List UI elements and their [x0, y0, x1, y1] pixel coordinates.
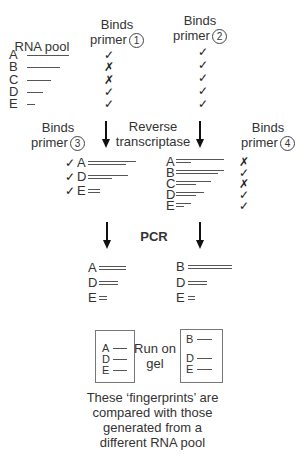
- primer-2-word: primer: [173, 28, 210, 43]
- primer-4-header: Binds primer4: [230, 120, 305, 151]
- cdna-strand-a: [88, 164, 126, 165]
- gel-band-e: [113, 370, 127, 371]
- cdna-strand-d: [176, 195, 196, 196]
- primer-2-header: Binds primer2: [160, 13, 240, 44]
- label-b: B: [176, 260, 185, 274]
- cdna-strand-c: [176, 184, 196, 185]
- gel-band-e: [197, 369, 212, 370]
- check-icon: ✓: [198, 71, 208, 85]
- dna-strand-e: [188, 296, 195, 297]
- dna-strand-d: [99, 281, 118, 282]
- gel-right: B D E: [180, 329, 223, 383]
- label-e: E: [88, 291, 97, 305]
- primer-4-line2: primer4: [230, 135, 305, 151]
- check-icon: ✓: [239, 199, 249, 213]
- band-label-e: E: [186, 362, 193, 376]
- primer-3-binds: Binds: [20, 120, 96, 135]
- rna-strand-e: [27, 104, 35, 105]
- rna-strand-c: [176, 181, 211, 182]
- circled-number-3: 3: [70, 136, 85, 151]
- rna-strand-e: [176, 203, 191, 204]
- check-icon: ✓: [198, 97, 208, 111]
- gel-band-d: [113, 359, 127, 360]
- primer-4-word: primer: [241, 135, 278, 150]
- transcriptase-word: transcriptase: [113, 134, 193, 149]
- check-icon: ✓: [198, 58, 208, 72]
- cdna-strand-b: [176, 173, 218, 174]
- label-d: D: [176, 276, 185, 290]
- cross-icon: ✗: [104, 60, 114, 74]
- primer-1-header: Binds primer1: [82, 17, 152, 48]
- rna-strand-b: [27, 67, 60, 68]
- check-icon: ✓: [65, 170, 75, 184]
- dna-strand-e: [99, 296, 107, 297]
- circled-number-2: 2: [212, 29, 227, 44]
- run-on-text: Run on: [133, 341, 177, 356]
- reverse-transcriptase-label: Reverse transcriptase: [113, 119, 193, 149]
- dna-strand-d: [188, 284, 207, 285]
- gel-band-b: [197, 339, 212, 340]
- primer-2-line2: primer2: [160, 28, 240, 44]
- cdna-strand-a: [176, 162, 191, 163]
- rna-strand-a: [176, 159, 224, 160]
- rna-strand-a: [27, 55, 69, 56]
- primer-1-line2: primer1: [82, 32, 152, 48]
- cdna-strand-d: [88, 178, 112, 179]
- caption-line-1: These ‘fingerprints’ are: [85, 390, 220, 405]
- label-e: E: [176, 291, 185, 305]
- gel-left: A D E: [95, 330, 135, 383]
- rna-strand-a: [88, 161, 136, 162]
- pcr-label: PCR: [136, 229, 172, 244]
- dna-strand-d: [188, 281, 207, 282]
- check-icon: ✓: [65, 156, 75, 170]
- rna-label-e: E: [9, 97, 18, 111]
- primer-3-line2: primer3: [20, 135, 96, 151]
- gel-band-a: [113, 348, 127, 349]
- primer-1-binds: Binds: [82, 17, 152, 32]
- rna-strand-d: [88, 175, 128, 176]
- rna-strand-d: [176, 192, 204, 193]
- check-icon: ✓: [198, 84, 208, 98]
- band-label-b: B: [186, 332, 193, 346]
- gel-text: gel: [133, 356, 177, 371]
- label-a: A: [77, 156, 86, 170]
- label-a: A: [88, 261, 97, 275]
- check-icon: ✓: [198, 45, 208, 59]
- check-icon: ✓: [65, 184, 75, 198]
- rna-strand-e: [88, 189, 100, 190]
- dna-strand-b: [188, 268, 232, 269]
- label-d: D: [77, 170, 86, 184]
- rna-strand-b: [176, 170, 224, 171]
- caption: These ‘fingerprints’ are compared with t…: [85, 390, 220, 450]
- dna-strand-e: [188, 299, 195, 300]
- reverse-word: Reverse: [113, 119, 193, 134]
- label-e: E: [77, 184, 86, 198]
- primer-1-word: primer: [90, 32, 127, 47]
- primer-2-binds: Binds: [160, 13, 240, 28]
- label-d: D: [88, 276, 97, 290]
- label-e: E: [166, 199, 175, 213]
- primer-3-header: Binds primer3: [20, 120, 96, 151]
- band-label-e: E: [102, 363, 109, 377]
- dna-strand-a: [99, 269, 126, 270]
- gel-band-d: [197, 358, 212, 359]
- circled-number-1: 1: [129, 33, 144, 48]
- primer-3-word: primer: [31, 135, 68, 150]
- rna-strand-d: [27, 92, 43, 93]
- primer-4-binds: Binds: [230, 120, 305, 135]
- check-icon: ✓: [104, 97, 114, 111]
- run-on-gel-label: Run on gel: [133, 341, 177, 371]
- caption-line-3: generated from a: [85, 420, 220, 435]
- circled-number-4: 4: [280, 136, 295, 151]
- cdna-strand-e: [176, 206, 184, 207]
- rna-strand-c: [27, 80, 51, 81]
- dna-strand-a: [99, 266, 126, 267]
- caption-line-4: different RNA pool: [85, 435, 220, 450]
- dna-strand-d: [99, 284, 118, 285]
- cdna-strand-e: [88, 192, 100, 193]
- dna-strand-e: [99, 299, 107, 300]
- dna-strand-b: [188, 265, 232, 266]
- caption-line-2: compared with those: [85, 405, 220, 420]
